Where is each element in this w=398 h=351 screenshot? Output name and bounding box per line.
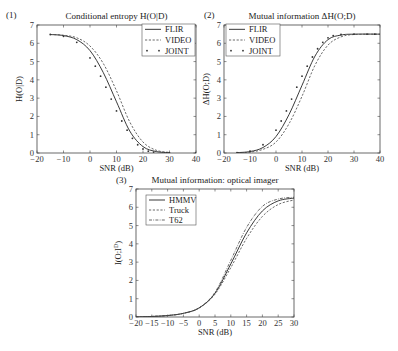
y-tick-label: 1 (129, 294, 133, 304)
x-axis-label: SNR (dB) (198, 327, 232, 337)
y-tick-label: 6 (217, 38, 221, 48)
y-tick-label: 4 (129, 239, 134, 249)
x-tick-label: 20 (324, 154, 333, 164)
data-point-joint (306, 65, 308, 67)
y-tick-label: 3 (129, 257, 133, 267)
y-tick-label: 4 (30, 75, 35, 85)
y-tick-label: 3 (217, 93, 221, 103)
y-axis-label: I(O;ID) (113, 241, 123, 265)
x-axis-label: SNR (dB) (99, 163, 133, 173)
legend-entry-flir: FLIR (249, 24, 268, 34)
y-tick-label: 7 (217, 20, 221, 30)
data-point-joint (280, 120, 282, 122)
data-point-joint (366, 33, 368, 35)
y-tick-label: 2 (129, 275, 133, 285)
data-point-joint (94, 65, 96, 67)
x-tick-label: −10 (57, 154, 70, 164)
legend-entry-joint: JOINT (249, 46, 273, 56)
data-point-joint (291, 98, 293, 100)
chart-title: Mutual information: optical imager (151, 175, 278, 185)
y-tick-label: 1 (217, 130, 221, 140)
data-point-joint (49, 34, 51, 36)
x-tick-label: 40 (376, 154, 385, 164)
data-point-joint (262, 144, 264, 146)
data-point-joint (327, 37, 329, 39)
x-tick-label: −10 (161, 318, 174, 328)
legend-entry-joint: JOINT (165, 46, 189, 56)
x-tick-label: 30 (290, 318, 299, 328)
legend: HMMVTruckT62 (146, 195, 197, 225)
legend-entry-truck: Truck (169, 205, 190, 215)
legend-entry-t62: T62 (169, 215, 183, 225)
data-point-joint (322, 41, 324, 43)
y-tick-label: 0 (30, 148, 34, 158)
data-point-joint (142, 148, 144, 150)
x-tick-label: 40 (192, 154, 201, 164)
y-tick-label: 5 (217, 57, 221, 67)
x-tick-label: −10 (243, 154, 256, 164)
chart-panel-2: −20−1001020304001234567(2)Mutual informa… (201, 10, 384, 173)
figure-canvas: −20−1001020304001234567(1)Conditional en… (0, 0, 398, 351)
legend: FLIRVIDEOJOINT (142, 24, 195, 56)
legend: FLIRVIDEOJOINT (226, 24, 280, 56)
x-tick-label: 0 (274, 154, 278, 164)
data-point-joint (249, 150, 251, 152)
chart-panel-1: −20−1001020304001234567(1)Conditional en… (6, 10, 200, 173)
x-tick-label: 0 (88, 154, 92, 164)
x-tick-label: −5 (179, 318, 188, 328)
x-tick-label: 20 (139, 154, 148, 164)
y-tick-label: 6 (30, 38, 34, 48)
data-point-joint (63, 35, 65, 37)
data-point-joint (340, 34, 342, 36)
data-point-joint (312, 56, 314, 58)
y-tick-label: 6 (129, 202, 133, 212)
data-point-joint (275, 129, 277, 131)
x-tick-label: 15 (242, 318, 251, 328)
x-tick-label: 25 (274, 318, 283, 328)
data-point-joint (137, 144, 139, 146)
data-point-joint (153, 151, 155, 153)
y-axis-label: ΔH(O;D) (201, 73, 211, 105)
data-point-joint (76, 41, 78, 43)
y-tick-label: 2 (30, 111, 34, 121)
legend-entry-video: VIDEO (249, 35, 275, 45)
panel-number: (1) (6, 10, 17, 20)
data-point-joint (105, 86, 107, 88)
data-point-joint (110, 98, 112, 100)
data-point-joint (286, 110, 288, 112)
legend-entry-hmmv: HMMV (169, 195, 197, 205)
chart-title: Conditional entropy H(O|D) (66, 11, 168, 21)
x-axis-label: SNR (dB) (285, 163, 319, 173)
y-tick-label: 0 (129, 312, 133, 322)
data-point-joint (147, 150, 149, 152)
x-tick-label: −15 (145, 318, 158, 328)
data-point-joint (296, 86, 298, 88)
x-tick-label: 20 (258, 318, 267, 328)
legend-entry-video: VIDEO (165, 35, 191, 45)
data-point-joint (317, 48, 319, 50)
legend-entry-flir: FLIR (165, 24, 184, 34)
y-tick-label: 5 (30, 57, 34, 67)
y-axis-label: H(O|D) (14, 76, 24, 102)
data-point-joint (100, 75, 102, 77)
chart-panel-3: −20−15−10−505101520253001234567(3)Mutual… (113, 175, 298, 337)
data-point-joint (126, 129, 128, 131)
y-tick-label: 2 (217, 111, 221, 121)
y-tick-label: 7 (30, 20, 34, 30)
y-tick-label: 7 (129, 184, 133, 194)
data-point-joint (121, 120, 123, 122)
panel-number: (2) (204, 10, 215, 20)
chart-title: Mutual information ΔH(O;D) (249, 11, 356, 21)
data-point-joint (132, 137, 134, 139)
y-tick-label: 4 (217, 75, 222, 85)
y-tick-label: 3 (30, 93, 34, 103)
data-point-joint (374, 33, 376, 35)
y-tick-label: 0 (217, 148, 221, 158)
y-tick-label: 1 (30, 130, 34, 140)
data-point-joint (89, 57, 91, 59)
data-point-joint (116, 110, 118, 112)
data-point-joint (301, 75, 303, 77)
data-point-joint (332, 35, 334, 37)
panel-number: (3) (116, 175, 127, 185)
y-tick-label: 5 (129, 221, 133, 231)
